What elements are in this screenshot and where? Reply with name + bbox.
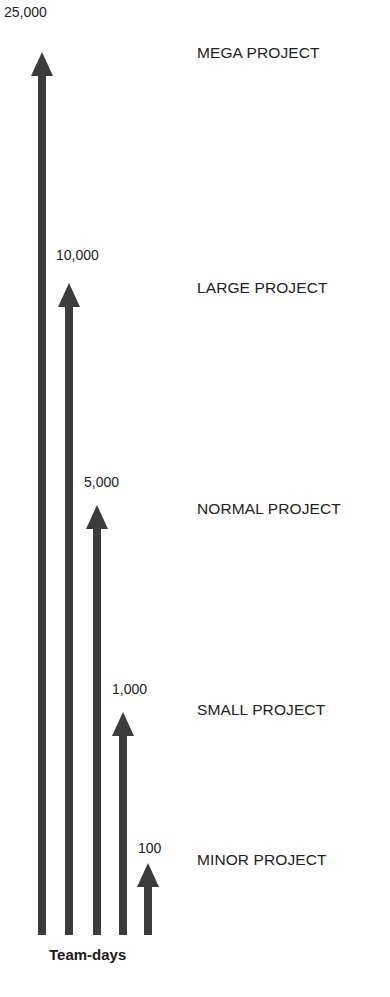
value-label-mega: 25,000 — [4, 4, 47, 20]
arrow-icon — [58, 283, 80, 935]
category-label-small: SMALL PROJECT — [197, 701, 325, 719]
project-size-arrow-diagram — [0, 0, 390, 997]
arrow-icon — [137, 863, 159, 935]
category-label-minor: MINOR PROJECT — [197, 851, 327, 869]
arrow-icon — [31, 52, 53, 935]
arrow-icon — [86, 505, 108, 935]
value-label-minor: 100 — [138, 840, 161, 856]
value-label-normal: 5,000 — [84, 474, 119, 490]
axis-label-team-days: Team-days — [49, 946, 126, 963]
category-label-normal: NORMAL PROJECT — [197, 500, 341, 518]
category-label-mega: MEGA PROJECT — [197, 44, 320, 62]
value-label-large: 10,000 — [56, 247, 99, 263]
arrow-icon — [112, 712, 134, 935]
category-label-large: LARGE PROJECT — [197, 279, 328, 297]
value-label-small: 1,000 — [112, 681, 147, 697]
